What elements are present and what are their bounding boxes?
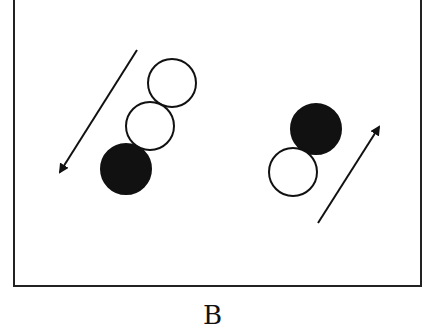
panel-label: B xyxy=(203,302,222,328)
filled-ball-right-pair-0 xyxy=(291,104,341,154)
balls-layer xyxy=(101,59,341,196)
hollow-ball-left-chain-1 xyxy=(126,102,174,150)
hollow-ball-right-pair-1 xyxy=(269,148,317,196)
filled-ball-left-chain-2 xyxy=(101,144,151,194)
hollow-ball-left-chain-0 xyxy=(148,59,196,107)
